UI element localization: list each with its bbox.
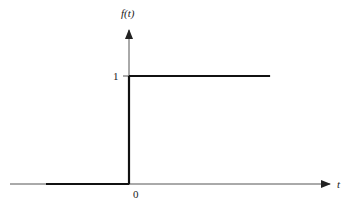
x-axis-label: t <box>337 178 341 190</box>
y-tick-label-1: 1 <box>113 70 119 82</box>
step-function-diagram: f(t) 1 0 t <box>0 0 350 205</box>
y-axis-label: f(t) <box>121 7 135 20</box>
x-tick-label-0: 0 <box>133 188 139 200</box>
